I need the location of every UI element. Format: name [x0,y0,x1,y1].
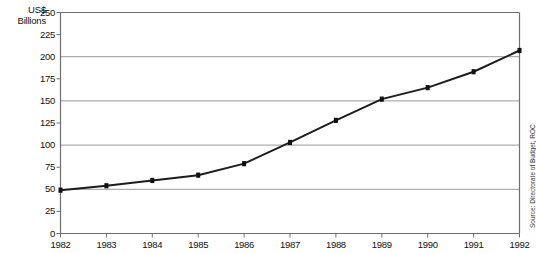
data-point-marker [518,48,522,53]
data-point-marker [150,178,154,183]
data-point-marker [288,140,292,145]
data-series [61,51,520,191]
plot-area [0,0,536,254]
data-point-marker [334,118,338,123]
axis-tickmarks [57,13,520,238]
axis-lines [61,13,520,234]
source-note: Source: Directorate of Budget, ROC [529,124,536,228]
data-point-marker [196,173,200,178]
data-point-marker [472,69,476,74]
data-point-marker [59,188,63,193]
line-chart: US$ Billions 025507510012515017520022525… [0,0,536,254]
data-point-marker [380,97,384,102]
data-point-marker [426,85,430,90]
data-point-markers [59,48,522,193]
data-point-marker [104,183,108,188]
gridlines [61,57,520,190]
series-line [61,51,520,191]
data-point-marker [242,161,246,166]
